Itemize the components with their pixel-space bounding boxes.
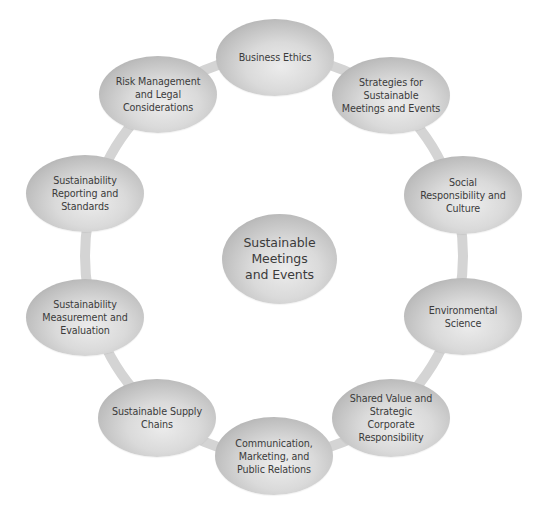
node-sustainable-supply-chains[interactable]: Sustainable Supply Chains	[98, 379, 216, 457]
node-social-responsibility-culture[interactable]: Social Responsibility and Culture	[404, 156, 522, 234]
node-risk-management-legal[interactable]: Risk Management and Legal Considerations	[99, 56, 217, 133]
node-label: Environmental Science	[423, 304, 504, 330]
center-node-sustainable-meetings-events[interactable]: Sustainable Meetings and Events	[222, 214, 337, 304]
node-business-ethics[interactable]: Business Ethics	[216, 19, 334, 96]
node-label: Social Responsibility and Culture	[414, 176, 512, 215]
node-environmental-science[interactable]: Environmental Science	[404, 278, 522, 355]
center-label: Sustainable Meetings and Events	[238, 235, 322, 283]
node-label: Business Ethics	[233, 51, 318, 64]
node-sustainability-reporting-standards[interactable]: Sustainability Reporting and Standards	[26, 155, 144, 232]
node-strategies-sustainable-meetings[interactable]: Strategies for Sustainable Meetings and …	[332, 57, 450, 134]
node-label: Sustainability Measurement and Evaluatio…	[36, 298, 133, 337]
node-label: Communication, Marketing, and Public Rel…	[229, 437, 318, 476]
node-label: Risk Management and Legal Considerations	[110, 75, 207, 114]
cycle-diagram: Business Ethics Strategies for Sustainab…	[0, 0, 544, 505]
node-label: Shared Value and Strategic Corporate Res…	[344, 392, 439, 444]
node-label: Strategies for Sustainable Meetings and …	[336, 76, 446, 115]
node-sustainability-measurement-evaluation[interactable]: Sustainability Measurement and Evaluatio…	[26, 279, 144, 356]
node-label: Sustainability Reporting and Standards	[46, 174, 124, 213]
node-shared-value-strategic-csr[interactable]: Shared Value and Strategic Corporate Res…	[332, 379, 450, 457]
node-communication-marketing-pr[interactable]: Communication, Marketing, and Public Rel…	[215, 417, 333, 495]
node-label: Sustainable Supply Chains	[106, 405, 208, 431]
